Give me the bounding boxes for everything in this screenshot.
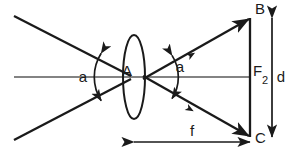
ray-incident-lower (14, 79, 131, 140)
label-distance-f: f (190, 122, 195, 139)
optics-diagram-canvas: A a a B C F 2 d f (0, 0, 291, 154)
ray-refracted-to-c (143, 76, 249, 136)
label-angle-left: a (79, 68, 88, 85)
label-angle-right: a (176, 58, 185, 75)
ray-refracted-to-b (143, 19, 249, 79)
label-distance-d: d (277, 68, 285, 85)
label-lens-center: A (122, 62, 132, 79)
label-focal-point: F (253, 62, 262, 79)
ray-incident-upper (14, 16, 131, 76)
ray-diagram-svg: A a a B C F 2 d f (0, 0, 291, 154)
label-focal-point-subscript: 2 (262, 74, 268, 86)
label-point-c: C (255, 129, 266, 146)
label-point-b: B (255, 0, 265, 17)
